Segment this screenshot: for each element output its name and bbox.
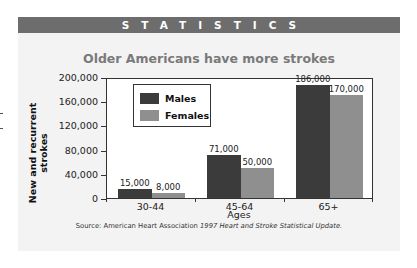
bar-value-label: 186,000 [288, 74, 338, 84]
x-tick [284, 199, 285, 202]
legend-item-males: Males [140, 92, 196, 104]
y-tick-label: 120,000 [28, 120, 98, 131]
margin-mark [0, 128, 3, 129]
y-tick [101, 126, 106, 127]
females-swatch [140, 110, 159, 121]
legend-item-females: Females [140, 109, 209, 121]
statistics-panel: STATISTICS Older Americans have more str… [18, 17, 400, 251]
chart-title: Older Americans have more strokes [18, 51, 400, 66]
y-tick-label: 160,000 [28, 96, 98, 107]
x-tick-label: 45-64 [200, 201, 280, 212]
y-tick [101, 102, 106, 103]
x-tick-label: 30-44 [111, 201, 191, 212]
bar-males-65+ [296, 85, 330, 198]
y-tick-label: 200,000 [28, 72, 98, 83]
y-tick-label: 80,000 [28, 145, 98, 156]
bar-females-30-44 [152, 193, 186, 198]
x-tick [195, 199, 196, 202]
y-tick [101, 78, 106, 79]
y-tick-label: 40,000 [28, 169, 98, 180]
bar-value-label: 8,000 [143, 182, 193, 192]
bar-females-65+ [330, 95, 364, 198]
y-tick [101, 175, 106, 176]
x-tick [106, 199, 107, 202]
bar-value-label: 71,000 [199, 144, 249, 154]
plot-area: Males Females 15,0008,00071,00050,000186… [106, 78, 373, 199]
bar-value-label: 50,000 [232, 157, 282, 167]
y-tick [101, 151, 106, 152]
section-header: STATISTICS [18, 17, 400, 33]
legend: Males Females [133, 84, 211, 127]
x-tick-label: 65+ [289, 201, 369, 212]
bar-females-45-64 [241, 168, 275, 198]
y-tick-label: 0 [28, 193, 98, 204]
males-swatch [140, 93, 159, 104]
x-tick [372, 199, 373, 202]
source-caption: Source: American Heart Association 1997 … [18, 222, 400, 230]
margin-mark [0, 113, 3, 114]
bar-value-label: 170,000 [321, 84, 371, 94]
